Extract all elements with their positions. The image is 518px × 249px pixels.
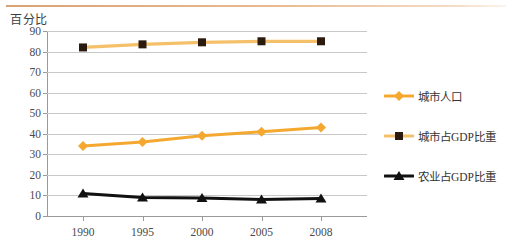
data-point-marker — [257, 127, 267, 137]
data-point-marker — [317, 37, 325, 45]
data-point-marker — [198, 38, 206, 46]
series-2 — [79, 37, 325, 51]
y-tick-label: 80 — [30, 46, 42, 58]
data-point-marker — [78, 141, 88, 151]
data-point-marker — [138, 137, 148, 147]
y-tick-label: 30 — [30, 148, 42, 160]
y-tick-label: 20 — [30, 169, 42, 181]
data-point-marker — [316, 123, 326, 133]
data-point-marker — [258, 37, 266, 45]
data-point-marker — [79, 43, 87, 51]
y-tick-label: 90 — [30, 25, 42, 37]
data-point-marker — [197, 131, 207, 141]
x-tick-label: 1995 — [131, 226, 154, 238]
y-tick-label: 60 — [30, 87, 42, 99]
y-tick-label: 40 — [30, 128, 42, 140]
chart-legend: 城市人口城市占GDP比重农业占GDP比重 — [384, 76, 514, 196]
y-tick-label: 0 — [35, 210, 41, 222]
series-3 — [78, 188, 327, 203]
triangle-marker-icon — [384, 169, 414, 183]
chart-figure: 百分比 0102030405060708090 1990199520002005… — [0, 0, 518, 249]
y-tick-label: 10 — [30, 189, 42, 201]
top-divider-rule — [6, 5, 506, 7]
x-tick-label: 2008 — [310, 226, 333, 238]
data-series-layer — [47, 31, 367, 217]
legend-item-label: 农业占GDP比重 — [418, 168, 496, 184]
x-tick-label: 2005 — [250, 226, 273, 238]
legend-item-label: 城市占GDP比重 — [418, 128, 496, 144]
legend-item-3[interactable]: 农业占GDP比重 — [384, 156, 514, 196]
square-marker-icon — [384, 129, 414, 143]
plot-area: 0102030405060708090 19901995200020052008 — [47, 31, 367, 216]
legend-item-label: 城市人口 — [418, 88, 462, 104]
series-1 — [78, 123, 326, 152]
x-tick-label: 1990 — [72, 226, 95, 238]
diamond-marker-icon — [384, 89, 414, 103]
y-tick-label: 50 — [30, 107, 42, 119]
x-tick-label: 2000 — [191, 226, 214, 238]
legend-item-2[interactable]: 城市占GDP比重 — [384, 116, 514, 156]
data-point-marker — [139, 40, 147, 48]
y-tick-label: 70 — [30, 66, 42, 78]
legend-item-1[interactable]: 城市人口 — [384, 76, 514, 116]
